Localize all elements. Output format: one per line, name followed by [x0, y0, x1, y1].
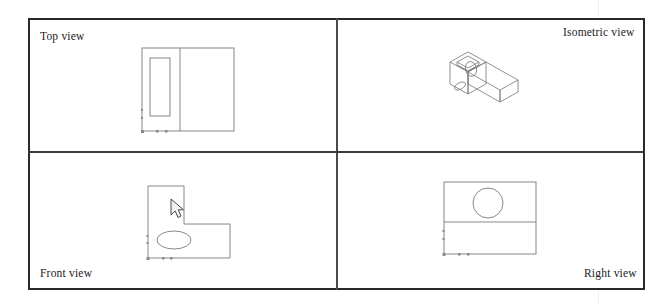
- drawing-canvas: Top view Isometric view: [0, 0, 671, 305]
- right-view-label: Right view: [584, 267, 637, 279]
- isometric-view-label: Isometric view: [563, 26, 634, 38]
- top-inner-slot: [150, 58, 170, 116]
- right-hole-circle: [473, 188, 503, 218]
- top-view-label: Top view: [40, 30, 85, 42]
- horizontal-quadrant-divider: [28, 151, 645, 153]
- front-view-drawing: [142, 182, 242, 268]
- iso-base-right-face: [500, 80, 518, 102]
- isometric-view-drawing: [438, 40, 528, 110]
- front-view-label: Front view: [40, 267, 92, 279]
- front-origin-markers: [147, 235, 173, 260]
- top-view-drawing: [138, 44, 242, 142]
- front-hole-ellipse: [157, 231, 191, 249]
- top-outer-rect: [142, 48, 234, 131]
- front-l-outline: [148, 186, 230, 258]
- right-view-drawing: [436, 176, 548, 266]
- top-origin-markers: [141, 109, 168, 133]
- right-origin-markers: [443, 230, 470, 256]
- vertical-quadrant-divider: [336, 18, 338, 290]
